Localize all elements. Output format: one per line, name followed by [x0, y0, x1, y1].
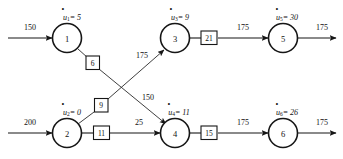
- flow-label-out-node-5: 175: [316, 23, 328, 32]
- node-6-potential: • u6= 26: [276, 100, 298, 117]
- node-5-potential: • u5= 30: [276, 5, 298, 22]
- flow-label-node-3-to-node-5: 175: [237, 23, 249, 32]
- svg-text:u1= 5: u1= 5: [63, 12, 81, 22]
- flow-label-in-node-2: 200: [24, 118, 36, 127]
- arc-label-box-15: 15: [201, 126, 217, 140]
- node-1-potential: • u1= 5: [62, 5, 81, 22]
- svg-text:u2= 0: u2= 0: [63, 107, 81, 117]
- node-4-potential: • u4= 11: [168, 100, 190, 117]
- node-2-label: 2: [65, 129, 69, 139]
- flow-label-out-node-6: 175: [316, 118, 328, 127]
- arc-label-box-9: 9: [95, 99, 109, 113]
- arc-label-11-value: 11: [98, 129, 105, 138]
- arc-label-box-21: 21: [201, 31, 217, 45]
- flow-label-node-2-to-node-4: 25: [135, 118, 143, 127]
- network-diagram-canvas: 1 2 3 4 5 6 • u1= 5 • u2= 0 • u3= 9 • u4…: [0, 0, 343, 159]
- flow-label-node-1-to-node-4: 150: [142, 93, 154, 102]
- arc-label-6-value: 6: [91, 59, 95, 68]
- flow-label-in-node-1: 150: [24, 23, 36, 32]
- node-2-potential: • u2= 0: [62, 100, 81, 117]
- arc-label-box-11: 11: [94, 126, 110, 140]
- node-3-potential-value: = 9: [178, 12, 189, 21]
- arc-label-21-value: 21: [205, 34, 213, 43]
- arc-label-box-6: 6: [86, 56, 100, 70]
- arc-label-9-value: 9: [99, 101, 103, 110]
- node-3-label: 3: [173, 34, 177, 44]
- flow-label-node-4-to-node-6: 175: [237, 118, 249, 127]
- svg-text:u4= 11: u4= 11: [168, 107, 190, 117]
- svg-text:u5= 30: u5= 30: [276, 12, 298, 22]
- arc-label-15-value: 15: [205, 129, 213, 138]
- node-1-label: 1: [65, 34, 69, 44]
- flow-label-node-2-to-node-3: 175: [136, 51, 148, 60]
- node-2-potential-value: = 0: [70, 107, 81, 116]
- node-6-potential-value: = 26: [283, 107, 298, 116]
- node-6-label: 6: [281, 129, 285, 139]
- node-5-potential-value: = 30: [283, 12, 298, 21]
- node-3-potential: • u3= 9: [170, 5, 189, 22]
- svg-text:u6= 26: u6= 26: [276, 107, 298, 117]
- node-1-potential-value: = 5: [70, 12, 81, 21]
- node-4-potential-value: = 11: [175, 107, 190, 116]
- network-flow-svg: 1 2 3 4 5 6 • u1= 5 • u2= 0 • u3= 9 • u4…: [0, 0, 343, 159]
- node-5-label: 5: [281, 34, 285, 44]
- svg-text:u3= 9: u3= 9: [171, 12, 189, 22]
